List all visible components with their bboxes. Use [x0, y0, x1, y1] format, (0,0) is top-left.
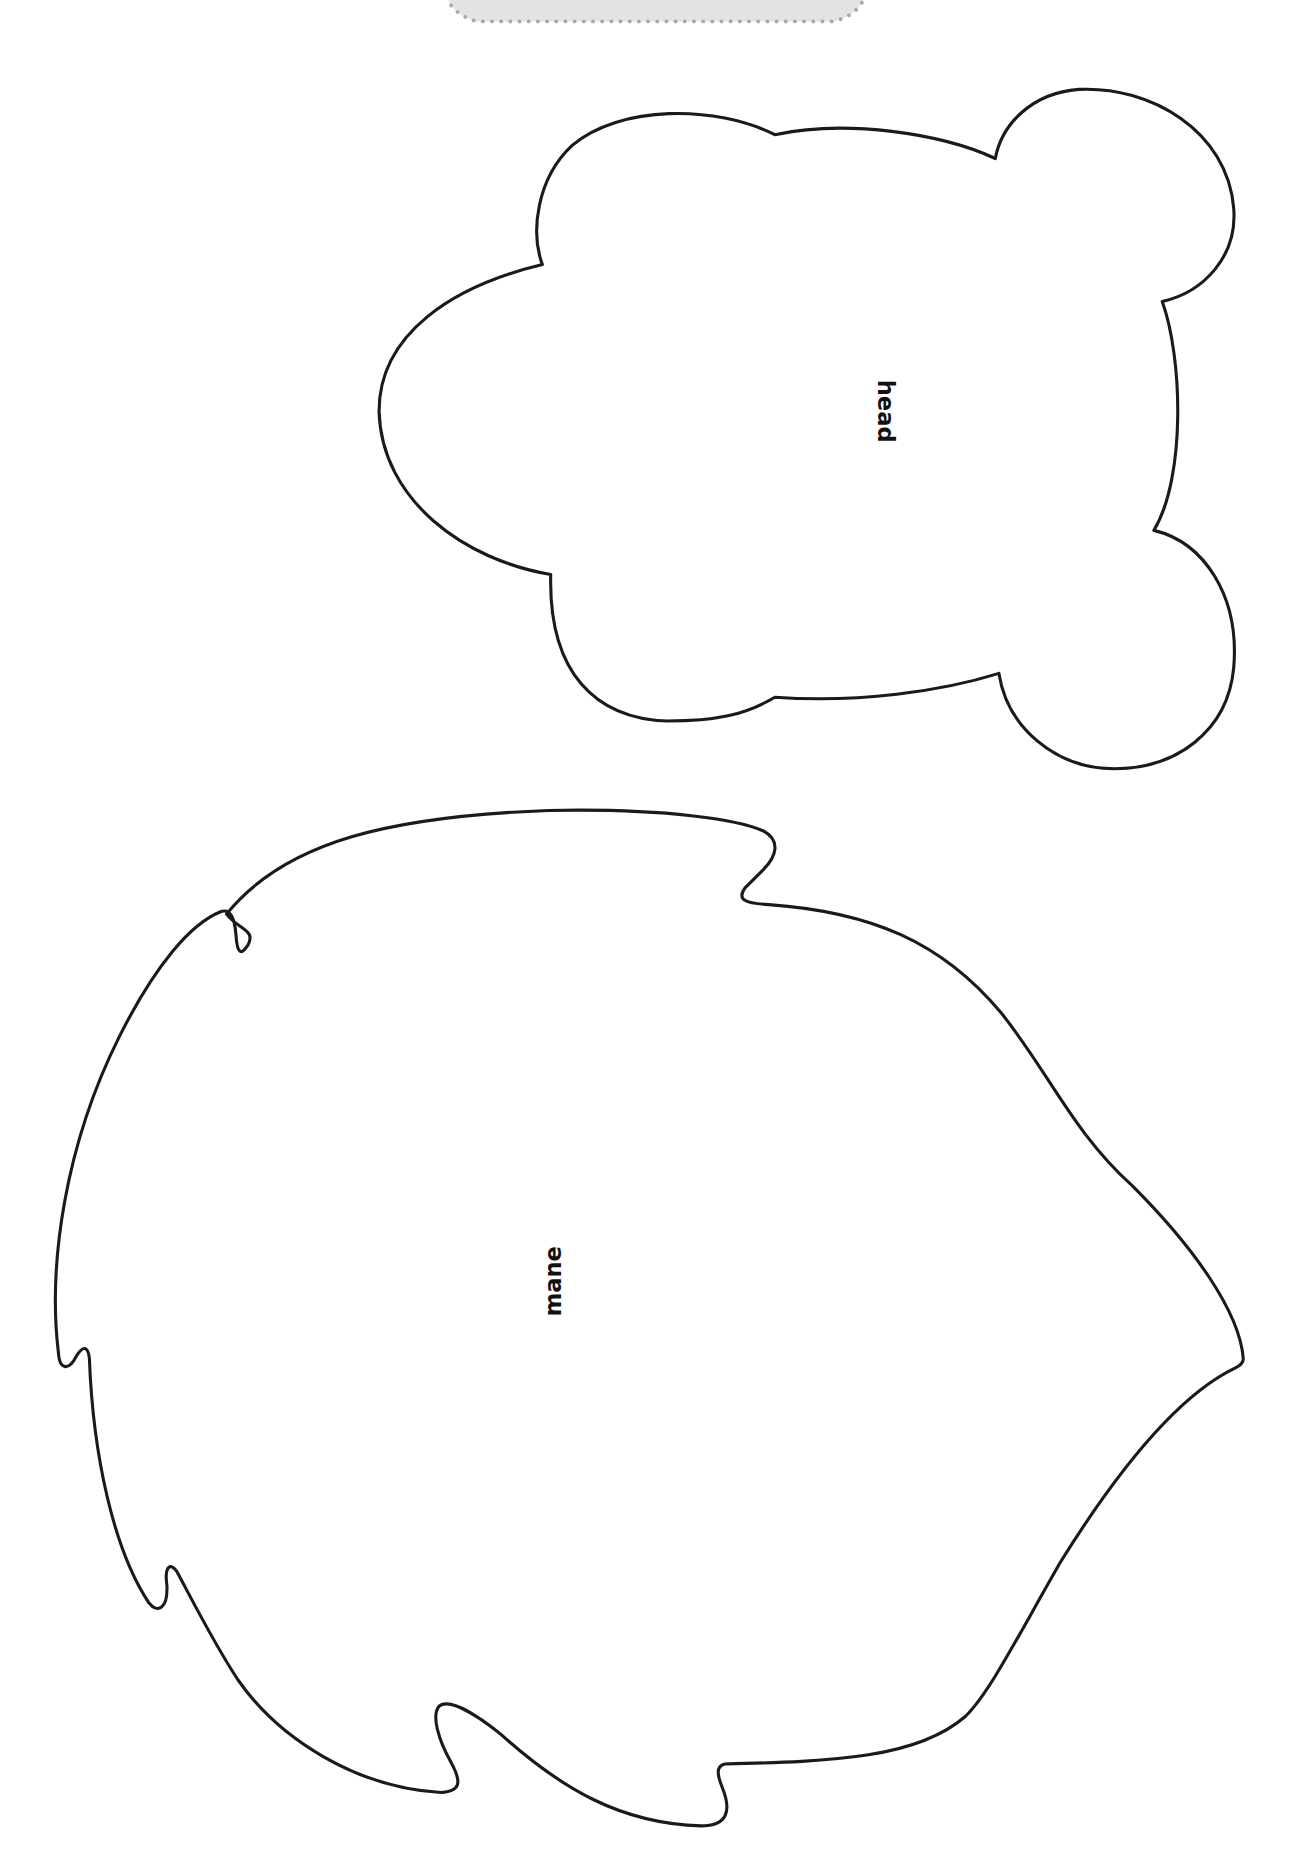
head-piece: head	[379, 89, 1234, 769]
header-tab	[447, 0, 864, 21]
template-page: head mane	[0, 0, 1316, 1870]
mane-label: mane	[540, 1246, 566, 1316]
head-label: head	[873, 380, 899, 443]
template-canvas: head mane	[0, 0, 1316, 1870]
mane-piece: mane	[55, 810, 1243, 1826]
mane-outline	[55, 810, 1243, 1826]
head-outline	[379, 89, 1234, 769]
